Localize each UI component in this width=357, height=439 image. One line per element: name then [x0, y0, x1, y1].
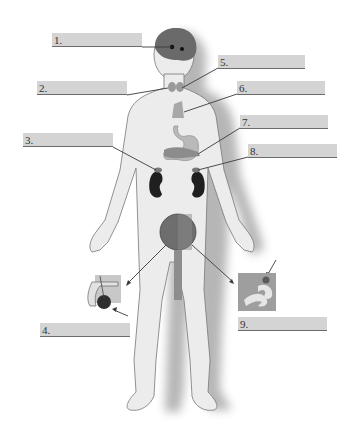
label-box-2[interactable]: 2. [37, 81, 127, 95]
label-number: 2. [39, 82, 47, 94]
pineal-dot [180, 47, 184, 51]
label-number: 4. [42, 324, 50, 336]
label-number: 8. [250, 145, 258, 157]
male-reproductive-inset [88, 275, 121, 309]
label-box-1[interactable]: 1. [52, 33, 142, 47]
label-box-8[interactable]: 8. [248, 144, 337, 158]
label-number: 6. [239, 82, 247, 94]
label-box-7[interactable]: 7. [240, 115, 328, 129]
label-number: 1. [54, 34, 62, 46]
label-number: 7. [242, 116, 250, 128]
label-box-9[interactable]: 9. [238, 317, 327, 331]
label-box-5[interactable]: 5. [218, 55, 305, 69]
label-number: 5. [220, 56, 228, 68]
label-box-3[interactable]: 3. [23, 133, 113, 147]
inner-leg-shadow [174, 250, 182, 300]
label-box-4[interactable]: 4. [40, 323, 130, 337]
female-reproductive-inset [238, 273, 276, 311]
label-number: 9. [240, 318, 248, 330]
label-number: 3. [25, 134, 33, 146]
ovary [263, 277, 270, 284]
label-box-6[interactable]: 6. [237, 81, 325, 95]
endocrine-diagram: 1. 2. 3. 4. 5. 6. 7. 8. 9. [0, 0, 357, 439]
